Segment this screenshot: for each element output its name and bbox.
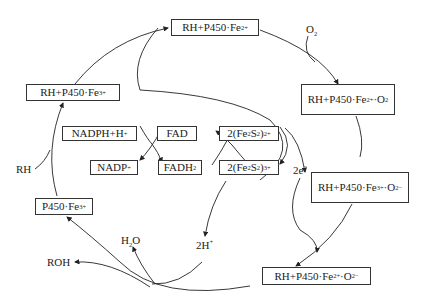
state-rh-p450-fe2-o2-minus: RH+P450·Fe2+·O2− [262, 267, 371, 285]
state-rh-p450-fe2: RH+P450·Fe2+ [171, 19, 259, 36]
label: NADP [97, 162, 127, 173]
fes-oxidized-box: 2(Fe2S2)3+ [219, 160, 279, 175]
label-tail: ·O [384, 182, 396, 193]
charge: − [303, 163, 307, 170]
electrons-label: 2e− [293, 165, 307, 176]
water-label: H2O [121, 235, 140, 246]
nadp-box: NADP+ [90, 160, 138, 175]
state-p450-fe3: P450·Fe3+ [35, 198, 93, 215]
label: 2(Fe [227, 162, 247, 173]
label: RH+P450·Fe [274, 271, 333, 282]
label: P450·Fe [42, 201, 79, 212]
state-rh-p450-fe3-o2-minus: RH+P450·Fe3+·O2− [311, 172, 409, 203]
label-mid: S [251, 128, 257, 139]
charge: + [209, 238, 213, 245]
label-tail: ·O [373, 94, 385, 105]
label: 2e [293, 164, 303, 176]
label: RH+P450·Fe [318, 182, 377, 193]
o2-label: O2 [306, 24, 317, 35]
state-rh-p450-fe2-o2: RH+P450·Fe2+·O2 [301, 84, 395, 115]
state-rh-p450-fe3: RH+P450·Fe3+ [26, 84, 120, 101]
label: RH+P450·Fe [308, 94, 367, 105]
nadph-box: NADPH+H+ [62, 126, 137, 141]
label: 2H [196, 239, 209, 251]
subscript: 2 [314, 30, 317, 37]
fes-reduced-box: 2(Fe2S2)2+ [219, 126, 279, 141]
label: 2(Fe [227, 128, 247, 139]
label-post: O [132, 234, 140, 246]
protons-label: 2H+ [196, 240, 213, 251]
fad-box: FAD [157, 126, 197, 141]
label: RH+P450·Fe [182, 22, 241, 33]
rh-label: RH [16, 164, 31, 175]
label: RH+P450·Fe [40, 87, 99, 98]
label: ROH [47, 256, 70, 268]
label: O [306, 23, 314, 35]
label: RH [16, 163, 31, 175]
label: FADH [164, 162, 193, 173]
label: NADPH+H [72, 128, 124, 139]
label: FAD [166, 128, 187, 139]
label: H [121, 234, 129, 246]
roh-label: ROH [47, 257, 70, 268]
label-mid: S [251, 162, 257, 173]
label-tail: ·O [340, 271, 352, 282]
fadh2-box: FADH2 [158, 160, 202, 175]
